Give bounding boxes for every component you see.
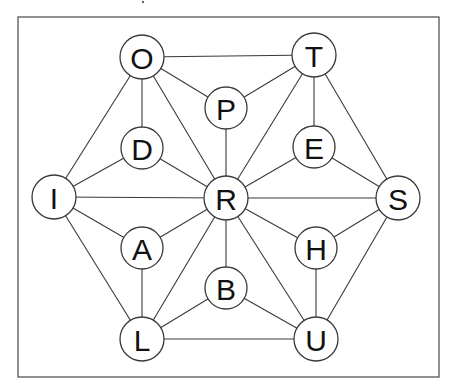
node-d: D bbox=[121, 127, 163, 169]
node-label: S bbox=[388, 183, 408, 216]
node-e: E bbox=[293, 126, 335, 168]
node-u: U bbox=[294, 317, 338, 361]
edge-r-u bbox=[226, 198, 316, 339]
node-o: O bbox=[120, 35, 164, 79]
node-t: T bbox=[292, 33, 336, 77]
node-label: T bbox=[305, 40, 323, 73]
node-p: P bbox=[205, 87, 247, 129]
stray-mark bbox=[142, 1, 144, 3]
node-h: H bbox=[295, 227, 337, 269]
edge-i-r bbox=[54, 197, 226, 198]
edge-o-i bbox=[54, 57, 142, 197]
node-label: D bbox=[131, 133, 153, 166]
node-label: P bbox=[216, 93, 236, 126]
edge-i-l bbox=[54, 197, 142, 339]
node-l: L bbox=[120, 317, 164, 361]
node-label: H bbox=[305, 233, 327, 266]
edge-o-r bbox=[142, 57, 226, 198]
edge-t-s bbox=[314, 55, 398, 198]
node-label: A bbox=[132, 233, 152, 266]
node-label: E bbox=[304, 132, 324, 165]
node-b: B bbox=[205, 267, 247, 309]
edge-o-t bbox=[142, 55, 314, 57]
edge-s-u bbox=[316, 198, 398, 339]
node-label: O bbox=[130, 42, 153, 75]
node-label: L bbox=[134, 324, 151, 357]
node-a: A bbox=[121, 227, 163, 269]
node-label: R bbox=[215, 183, 237, 216]
node-s: S bbox=[376, 176, 420, 220]
node-label: U bbox=[305, 324, 327, 357]
node-r: R bbox=[204, 176, 248, 220]
node-i: I bbox=[32, 175, 76, 219]
node-label: B bbox=[216, 273, 236, 306]
edge-r-l bbox=[142, 198, 226, 339]
letter-graph-diagram: OTPDEIRSAHBLU bbox=[0, 0, 455, 391]
node-label: I bbox=[50, 182, 58, 215]
edge-t-r bbox=[226, 55, 314, 198]
